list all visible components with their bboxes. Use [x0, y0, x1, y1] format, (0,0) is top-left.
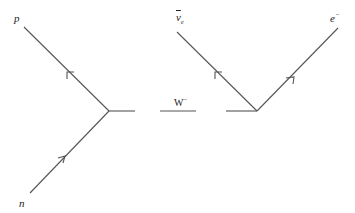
proton-line [24, 27, 109, 111]
electron-line [257, 28, 338, 111]
electron-label: e− [330, 12, 340, 24]
w-boson-label: W− [174, 97, 187, 108]
neutron-line [30, 111, 109, 193]
antineutrino-label: νe [176, 12, 184, 25]
proton-label: p [14, 13, 20, 24]
neutron-label: n [19, 198, 25, 209]
